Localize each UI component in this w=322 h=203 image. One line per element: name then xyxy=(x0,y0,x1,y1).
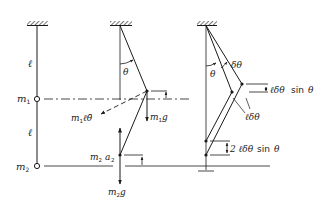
ceiling-support-left xyxy=(27,21,48,25)
panel-middle-forces: θ m 1 ℓθ̈ m 1 g m 2 a 2 m 2 g xyxy=(71,21,168,198)
rod-upper-original xyxy=(206,26,232,93)
mass2-label: m xyxy=(16,161,25,172)
weight2-rest: g xyxy=(120,187,126,197)
mass1-original-point xyxy=(230,90,233,93)
theta-arc-middle xyxy=(120,60,133,64)
m1-disp-label: ℓδθ xyxy=(270,85,285,95)
mass2-circle xyxy=(34,163,39,168)
virtual-displacement-label: ℓδθ xyxy=(245,112,260,122)
panel-right-virtual-displacement: θ δθ ℓδθ ℓδθ sin θ 2 ℓδθ sin θ xyxy=(197,21,314,171)
mass2-original-point xyxy=(204,139,207,142)
inertia2-a-subscript: 2 xyxy=(111,157,115,163)
theta-label-middle: θ xyxy=(123,67,129,77)
delta-theta-label: δθ xyxy=(231,60,242,70)
length-label-upper: ℓ xyxy=(28,58,32,69)
m2-disp-sin: sin xyxy=(257,144,270,154)
theta-arc-right xyxy=(206,63,216,66)
inertia-force-label: m xyxy=(71,113,80,123)
ceiling-support-middle xyxy=(110,21,132,25)
double-pendulum-diagram: ℓ ℓ m 1 m 2 θ m 1 ℓθ̈ m 1 g xyxy=(0,0,322,203)
m1-disp-sin: sin xyxy=(291,85,304,95)
weight2-label: m xyxy=(108,187,117,197)
mass2-displaced-point xyxy=(204,153,207,156)
inertia2-label: m xyxy=(90,152,99,162)
rod-lower-original xyxy=(206,92,232,141)
weight1-rest: g xyxy=(162,112,168,122)
mass1-subscript: 1 xyxy=(27,98,31,105)
inertia2-subscript: 2 xyxy=(99,157,103,163)
l-delta-theta-leader-2 xyxy=(233,98,245,113)
l-delta-theta-leader xyxy=(246,98,250,109)
rod-upper-middle xyxy=(120,26,147,92)
length-label-lower: ℓ xyxy=(28,127,32,138)
inertia-force-rest: ℓθ̈ xyxy=(83,113,93,123)
mass1-label: m xyxy=(17,93,26,104)
weight1-label: m xyxy=(150,112,159,122)
theta-label-right: θ xyxy=(210,69,216,79)
inertia2-a: a xyxy=(105,152,110,162)
m2-disp-theta: θ xyxy=(274,144,280,154)
mass1-displaced-point xyxy=(240,82,243,85)
mass2-subscript: 2 xyxy=(26,166,30,173)
m2-disp-label: 2 ℓδθ xyxy=(229,144,254,154)
m1-disp-theta: θ xyxy=(308,85,314,95)
mass1-circle xyxy=(34,96,39,101)
rod-lower-middle xyxy=(120,91,147,155)
ceiling-support-right xyxy=(197,21,217,25)
inertia-force-arrow-m1 xyxy=(101,91,147,114)
